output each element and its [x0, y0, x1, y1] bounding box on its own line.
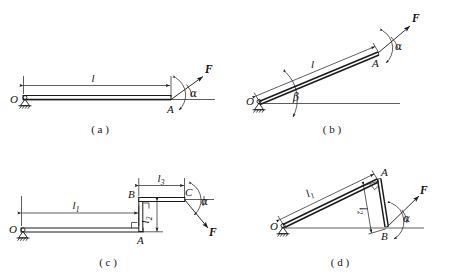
figure-d: l1 l2 F α O A B ( d )	[270, 166, 428, 269]
figure-c: l1 l3 l2 F α O A B C	[9, 172, 217, 269]
fig-c-right-angle-at-A	[132, 223, 138, 229]
fig-a-label-point-A: A	[166, 103, 174, 115]
fig-d-label-point-O: O	[270, 220, 278, 232]
fig-a-ground-hatching	[20, 106, 30, 109]
fig-b-label-angle-beta: β	[292, 91, 299, 103]
fig-b-label-point-A: A	[371, 57, 379, 69]
fig-a-label-length-l: l	[91, 72, 94, 84]
fig-d-label-point-B: B	[381, 230, 388, 242]
fig-c-label-point-O: O	[9, 223, 17, 235]
fig-b-label-angle-alpha: α	[395, 40, 402, 52]
fig-c-label-angle-alpha: α	[201, 195, 208, 207]
fig-b-label-point-O: O	[246, 95, 254, 107]
fig-c-label-force-F: F	[208, 226, 217, 238]
fig-a-label-point-O: O	[10, 93, 18, 105]
fig-b-dim-ext-right	[373, 43, 379, 52]
fig-d-label-force-F: F	[419, 184, 428, 196]
fig-c-label-point-C: C	[185, 186, 193, 198]
fig-a-rotation-arc	[176, 78, 186, 110]
fig-c-bar-AB	[139, 198, 143, 232]
fig-c-label-point-A: A	[136, 234, 144, 246]
figure-b: l F α β O A ( b )	[246, 12, 420, 136]
fig-d-caption: ( d )	[331, 256, 350, 269]
fig-d-dim-ext-l1-right	[372, 171, 378, 180]
fig-d-dim-ext-l1-left	[278, 216, 284, 225]
figure-sheet: l F α O A ( a )	[0, 0, 451, 279]
fig-d-ground-hatching	[278, 234, 288, 237]
fig-a-label-force-F: F	[204, 63, 213, 75]
fig-c-ground-hatching	[18, 238, 28, 241]
fig-b-ground-hatching	[254, 110, 264, 113]
fig-c-bar-BC	[139, 198, 185, 202]
fig-d-label-point-A: A	[380, 166, 388, 178]
fig-c-label-point-B: B	[128, 188, 135, 200]
fig-c-label-length-l1: l1	[73, 199, 80, 214]
fig-c-bar-OA	[21, 228, 143, 232]
fig-b-dim-line-l	[256, 47, 375, 97]
fig-b-label-force-F: F	[411, 12, 420, 24]
fig-d-bar-OA	[283, 179, 379, 228]
figures-canvas: l F α O A ( a )	[0, 0, 451, 279]
fig-b-bar-OA	[259, 52, 379, 105]
fig-b-label-length-l: l	[311, 58, 314, 70]
fig-a-label-angle-alpha: α	[190, 87, 197, 99]
fig-d-bar-AB	[378, 179, 389, 228]
figure-a: l F α O A ( a )	[10, 63, 215, 136]
fig-d-label-length-l1: l1	[304, 186, 316, 202]
fig-b-caption: ( b )	[323, 123, 342, 136]
fig-c-label-length-l3: l3	[158, 172, 165, 187]
fig-c-caption: ( c )	[99, 256, 117, 269]
fig-b-force-arrow-F	[378, 26, 410, 53]
fig-c-right-angle-at-B	[143, 203, 149, 209]
fig-a-caption: ( a )	[91, 123, 109, 136]
fig-a-force-arrow-F	[171, 77, 203, 100]
fig-b-dim-ext-left	[254, 93, 260, 102]
